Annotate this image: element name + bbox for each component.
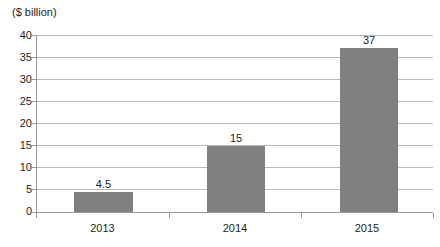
- y-tick-label: 0: [6, 206, 32, 217]
- y-axis-line: [36, 35, 37, 213]
- y-tick-label: 40: [6, 30, 32, 41]
- y-tick-label: 30: [6, 74, 32, 85]
- bar-2013[interactable]: [74, 192, 133, 212]
- y-tick-label: 15: [6, 140, 32, 151]
- x-tick-mark: [433, 213, 434, 218]
- x-axis-line: [36, 212, 433, 213]
- x-category-label-2014: 2014: [169, 222, 301, 234]
- y-tick-label: 10: [6, 162, 32, 173]
- y-tick-label: 5: [6, 184, 32, 195]
- bar-value-label-2014: 15: [207, 132, 265, 144]
- bar-chart: ($ billion) 40 35 30 25 20 15 10 5 0 4.5…: [0, 0, 440, 247]
- y-axis-tick-labels: 40 35 30 25 20 15 10 5 0: [0, 0, 32, 247]
- y-tick-label: 25: [6, 96, 32, 107]
- x-tick-mark: [301, 213, 302, 218]
- x-tick-mark: [36, 213, 37, 218]
- x-category-label-2015: 2015: [301, 222, 433, 234]
- x-category-label-2013: 2013: [36, 222, 169, 234]
- bar-2015[interactable]: [340, 48, 398, 212]
- bar-value-label-2015: 37: [340, 34, 398, 46]
- bar-2014[interactable]: [207, 146, 265, 212]
- x-tick-mark: [169, 213, 170, 218]
- y-tick-label: 35: [6, 52, 32, 63]
- bar-value-label-2013: 4.5: [74, 178, 133, 190]
- y-tick-label: 20: [6, 118, 32, 129]
